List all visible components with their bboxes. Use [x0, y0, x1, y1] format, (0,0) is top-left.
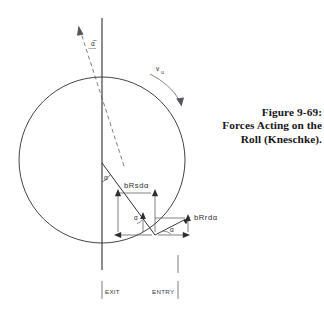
alpha-bar-label: α̅ [91, 40, 97, 47]
entry-label: ENTRY [152, 288, 174, 295]
caption-title-line-1: Forces Acting on the [214, 119, 322, 132]
tangential-force-label: bRrdα [194, 213, 218, 222]
tangential-horizontal-arrowhead-icon [183, 232, 190, 238]
velocity-arrowhead-icon [176, 98, 184, 107]
dashed-line-arrowhead-icon [77, 26, 84, 36]
caption-figure-number: Figure 9-69: [214, 106, 322, 119]
velocity-arc [150, 74, 180, 101]
alpha-angle-arc-middle [137, 220, 142, 224]
alpha-label-3: α [170, 226, 174, 233]
resultant-force-line [102, 163, 155, 235]
radial-force-label: bRsdα [124, 181, 149, 190]
exit-label: EXIT [105, 288, 120, 295]
velocity-subscript-label: u [161, 70, 164, 75]
figure-caption: Figure 9-69: Forces Acting on the Roll (… [214, 106, 322, 146]
alpha-label-1: α [104, 174, 108, 181]
velocity-label: v [156, 65, 160, 72]
radial-component-arrowhead-right-icon [152, 189, 158, 196]
tangential-component-arrowhead-icon [185, 214, 191, 221]
radial-component-arrowhead-left-icon [115, 189, 121, 196]
roll-force-diagram: α̅ v u α bRsdα α [0, 0, 324, 310]
caption-title-line-2: Roll (Kneschke). [214, 133, 322, 146]
alpha-label-2: α [134, 214, 138, 221]
figure-page: α̅ v u α bRsdα α [0, 0, 324, 310]
radial-component-arrowhead-bottom-icon [114, 232, 121, 238]
